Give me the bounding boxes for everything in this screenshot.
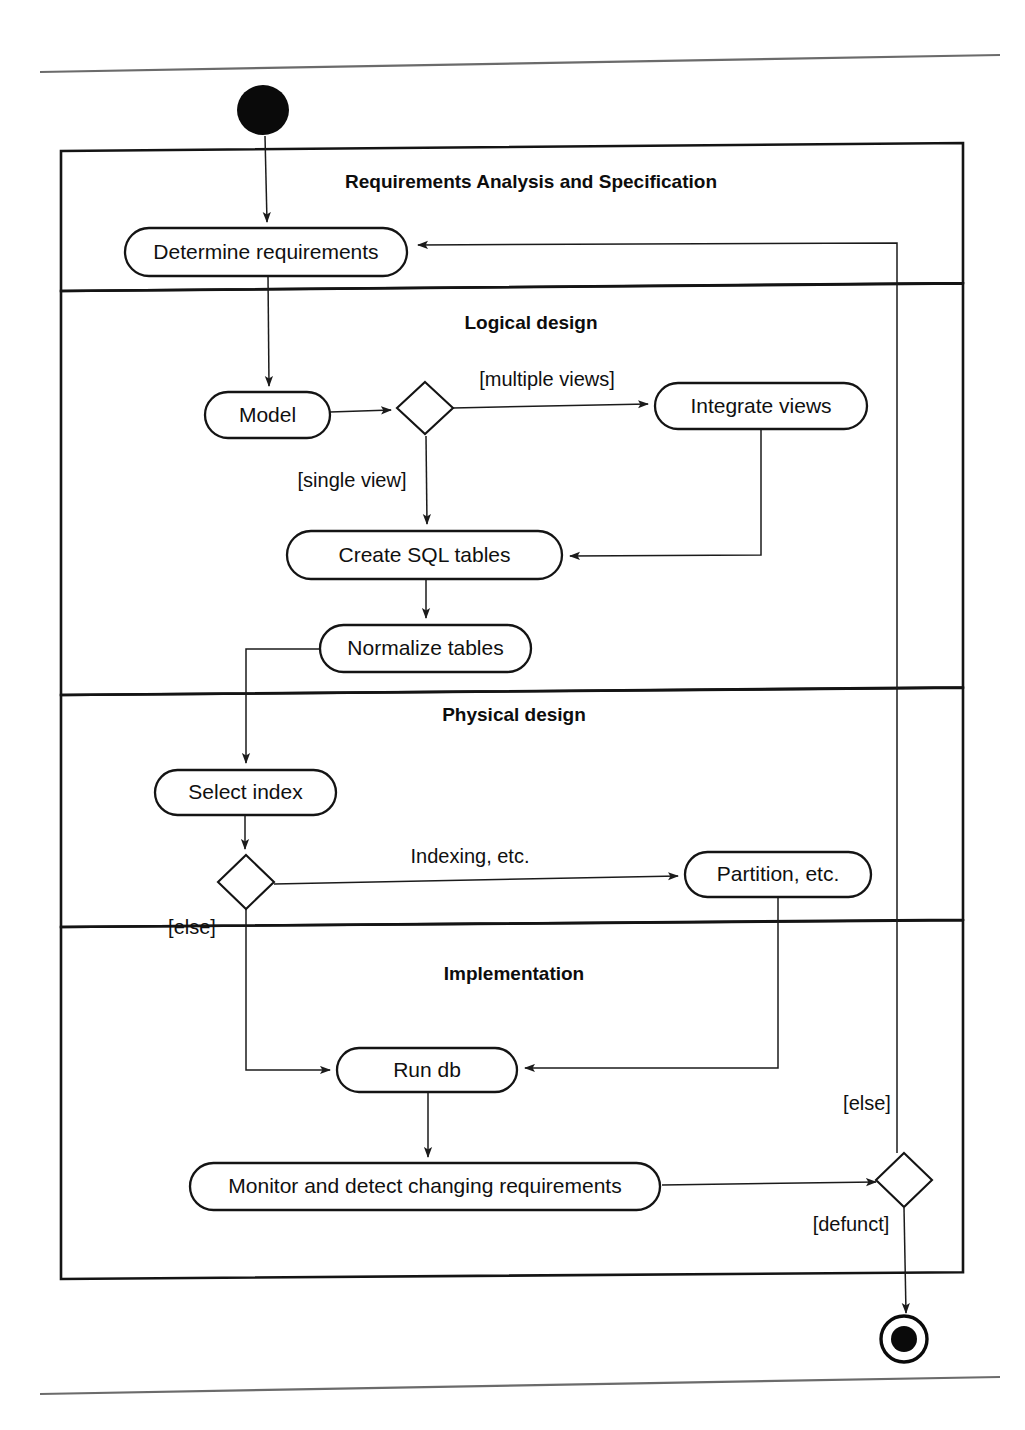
node-integrate-views: Integrate views	[655, 383, 867, 429]
index-decision-shape	[218, 855, 274, 909]
node-final	[881, 1316, 927, 1362]
create-sql-tables-label: Create SQL tables	[339, 543, 511, 566]
edge-e-determine-model	[268, 276, 269, 386]
node-initial	[237, 85, 289, 135]
swimlane-title-physical: Physical design	[442, 704, 586, 725]
edge-e-normalize-selectindex	[246, 649, 321, 763]
edge-e-integrate-createsql	[570, 430, 761, 556]
defunct-decision-shape	[876, 1153, 932, 1207]
edge-e-defunct-final	[904, 1208, 906, 1313]
node-partition-etc: Partition, etc.	[685, 852, 871, 897]
guard-label-e-defunct-determine: [else]	[843, 1092, 891, 1114]
edge-e-model-decision	[330, 410, 391, 412]
partition-etc-label: Partition, etc.	[717, 862, 840, 885]
node-create-sql-tables: Create SQL tables	[287, 531, 562, 579]
edge-e-decision-integrate	[453, 404, 648, 408]
guard-label-e-indexdecision-partition: Indexing, etc.	[411, 845, 530, 867]
node-run-db: Run db	[337, 1048, 517, 1092]
determine-requirements-label: Determine requirements	[153, 240, 378, 263]
uml-activity-diagram: Determine requirementsModelIntegrate vie…	[0, 0, 1025, 1430]
bottom-rule	[40, 1377, 1000, 1394]
integrate-views-label: Integrate views	[690, 394, 831, 417]
node-determine-requirements: Determine requirements	[125, 228, 407, 276]
swimlane-title-logical: Logical design	[464, 312, 597, 333]
guard-label-e-indexdecision-rundb: [else]	[168, 916, 216, 938]
model-label: Model	[239, 403, 296, 426]
normalize-tables-label: Normalize tables	[347, 636, 503, 659]
edge-e-decision-createsql	[426, 436, 427, 524]
guard-label-e-defunct-final: [defunct]	[813, 1213, 890, 1235]
run-db-label: Run db	[393, 1058, 461, 1081]
node-index-decision	[218, 855, 274, 909]
activity-diagram-canvas: Determine requirementsModelIntegrate vie…	[0, 0, 1025, 1430]
swimlane-title-requirements: Requirements Analysis and Specification	[345, 171, 717, 192]
edge-e-indexdecision-rundb	[246, 909, 330, 1070]
top-rule	[40, 55, 1000, 72]
node-monitor-requirements: Monitor and detect changing requirements	[190, 1163, 660, 1210]
final-inner	[891, 1326, 917, 1352]
swimlane-title-implementation: Implementation	[444, 963, 584, 984]
edge-e-monitor-defunct	[662, 1182, 876, 1185]
node-normalize-tables: Normalize tables	[320, 625, 531, 672]
initial-shape	[237, 85, 289, 135]
monitor-requirements-label: Monitor and detect changing requirements	[228, 1174, 621, 1197]
node-select-index: Select index	[155, 770, 336, 815]
node-model: Model	[205, 392, 330, 438]
node-views-decision	[397, 382, 453, 434]
node-defunct-decision	[876, 1153, 932, 1207]
select-index-label: Select index	[188, 780, 303, 803]
edge-e-indexdecision-partition	[274, 876, 678, 884]
guard-label-e-decision-integrate: [multiple views]	[479, 368, 615, 390]
guard-label-e-decision-createsql: [single view]	[298, 469, 407, 491]
views-decision-shape	[397, 382, 453, 434]
